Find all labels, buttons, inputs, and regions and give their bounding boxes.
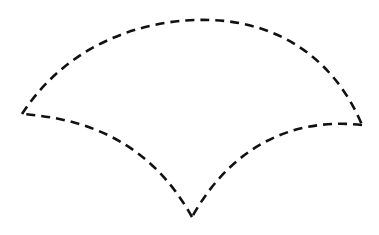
lower-right-arc-edge	[192, 124, 362, 217]
top-arc-edge	[22, 20, 362, 125]
lower-left-arc-edge	[22, 114, 192, 217]
curved-triangle-diagram	[0, 0, 379, 235]
